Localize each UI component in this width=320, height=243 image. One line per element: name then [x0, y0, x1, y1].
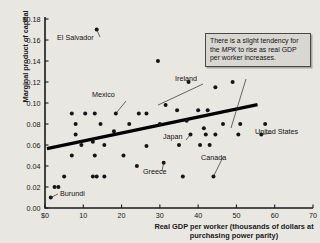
trend-line [47, 105, 258, 149]
data-point [206, 108, 210, 112]
data-point [164, 103, 168, 107]
data-point [213, 85, 217, 89]
data-point [53, 185, 57, 189]
annotation-label: Canada [201, 153, 226, 162]
annotation-label: United States [255, 127, 299, 136]
x-axis-tick-label: 50 [232, 211, 240, 220]
annotation-label: El Salvador [57, 33, 94, 42]
data-point [91, 140, 95, 144]
callout-leader-line [231, 79, 246, 128]
x-axis-tick-label: 60 [271, 211, 279, 220]
data-point [91, 175, 95, 179]
data-point [93, 154, 97, 158]
data-point [70, 154, 74, 158]
data-point [99, 122, 103, 126]
annotation-label: Burundi [60, 189, 85, 198]
data-point [144, 144, 148, 148]
x-axis-tick-label: 10 [79, 211, 87, 220]
annotation-leader-line [116, 101, 126, 114]
data-point [70, 112, 74, 116]
callout-annotation: There is a slight tendency for the MPK t… [205, 33, 311, 67]
data-point [137, 112, 141, 116]
data-point [263, 122, 267, 126]
annotation-label: Mexico [92, 90, 115, 99]
data-point [127, 122, 131, 126]
data-point [95, 175, 99, 179]
annotation-label: Greece [143, 167, 167, 176]
x-axis-tick-label: 70 [309, 211, 317, 220]
y-axis-tick-label: 0.04 [27, 162, 41, 171]
callout-text-emphasis: MPK [222, 46, 237, 53]
data-point [236, 133, 240, 137]
data-point [79, 143, 83, 147]
data-point [221, 122, 225, 126]
data-point [181, 175, 185, 179]
data-point [185, 119, 189, 123]
data-point [121, 154, 125, 158]
x-axis-tick-label: $0 [41, 211, 49, 220]
data-point [202, 126, 206, 130]
data-point [175, 108, 179, 112]
trendline-group [47, 105, 258, 149]
x-axis-tick-label: 30 [156, 211, 164, 220]
data-point [144, 112, 148, 116]
annotation-label: Ireland [175, 74, 197, 83]
data-point [231, 80, 235, 84]
annotation-leader-line [158, 84, 203, 105]
data-point [158, 122, 162, 126]
data-point [198, 143, 202, 147]
y-axis-tick-label: 0.08 [27, 120, 41, 129]
data-point [74, 122, 78, 126]
x-axis-title: Real GDP per worker (thousands of dollar… [150, 222, 318, 241]
data-point [102, 175, 106, 179]
data-point [62, 175, 66, 179]
data-point [208, 143, 212, 147]
data-point [177, 143, 181, 147]
data-point [74, 133, 78, 137]
data-point [112, 129, 116, 133]
y-axis-tick-label: 0.02 [27, 183, 41, 192]
data-point [213, 133, 217, 137]
y-axis-tick-label: 0.00 [27, 204, 41, 213]
data-point [196, 108, 200, 112]
data-point [156, 59, 160, 63]
scatter-chart: 0.000.020.040.060.080.100.120.140.16$0.1… [0, 0, 320, 243]
data-point [238, 122, 242, 126]
annotation-label: Japan [163, 132, 183, 141]
y-axis-title: Marginal product of capital [21, 2, 30, 112]
x-axis-tick-label: 20 [118, 211, 126, 220]
data-point [204, 133, 208, 137]
annotation-leader-line [97, 30, 100, 38]
data-point [135, 164, 139, 168]
annotation-leader-line [186, 135, 190, 141]
annotation-leader-line [51, 194, 58, 198]
x-axis-tick-label: 40 [194, 211, 202, 220]
data-point [83, 112, 87, 116]
data-point [93, 112, 97, 116]
data-point [102, 143, 106, 147]
y-axis-tick-label: 0.06 [27, 141, 41, 150]
